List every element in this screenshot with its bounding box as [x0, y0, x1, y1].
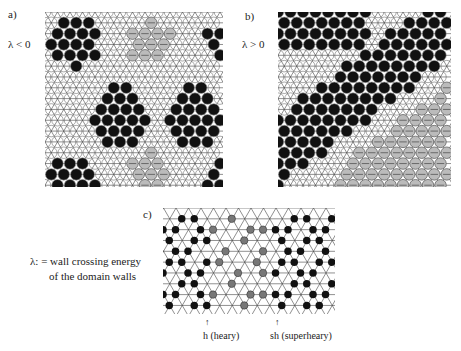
panel-c-label: c) — [143, 208, 152, 220]
panel-b-condition: λ > 0 — [242, 38, 265, 50]
panel-b-label: b) — [245, 10, 254, 22]
panel-c-lattice — [163, 208, 335, 314]
arrow-superheavy-icon: ↑ — [275, 318, 280, 327]
arrow-heavy-icon: ↑ — [205, 318, 210, 327]
panel-b-lattice — [278, 12, 451, 187]
legend-line-2: of the domain walls — [49, 269, 136, 284]
heavy-label: h (heary) — [203, 330, 239, 341]
superheavy-label: sh (superheary) — [270, 330, 332, 341]
panel-a-condition: λ < 0 — [8, 38, 31, 50]
panel-a-label: a) — [8, 8, 17, 20]
legend-line-1: λ: = wall crossing energy — [30, 254, 141, 269]
panel-a-lattice — [45, 12, 223, 187]
